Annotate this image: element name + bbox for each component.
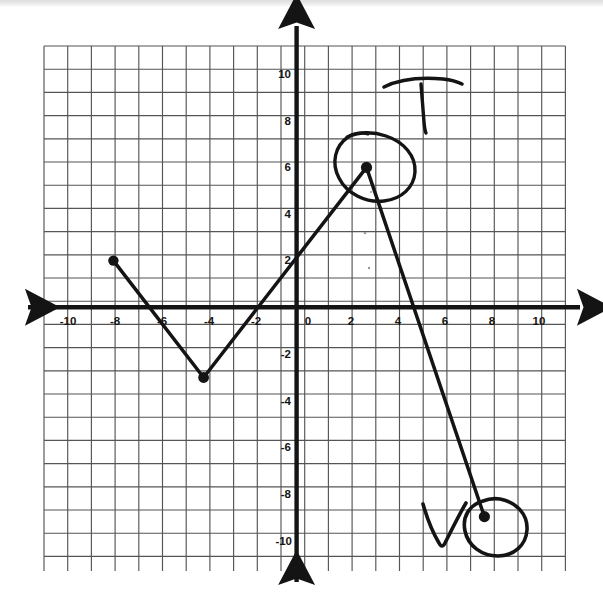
x-tick-0: 0	[305, 315, 311, 327]
y-tick-8: 8	[285, 115, 292, 127]
x-tick-10: 10	[533, 315, 546, 327]
y-tick--8: -8	[281, 488, 292, 500]
data-point-marker	[479, 511, 490, 522]
x-tick--10: -10	[60, 315, 77, 327]
scanned-page: -10 -8 -6 -4 -2 0 2 4 6 8 10 10 8 6 4 2 …	[0, 0, 603, 604]
series-line	[113, 167, 484, 516]
handwritten-annotations	[335, 78, 527, 556]
y-tick--4: -4	[281, 395, 292, 407]
x-tick-6: 6	[442, 315, 448, 327]
y-tick--2: -2	[281, 348, 291, 360]
x-tick-4: 4	[395, 315, 402, 327]
scan-speck	[364, 191, 372, 269]
x-tick-2: 2	[348, 315, 354, 327]
y-tick-6: 6	[285, 161, 291, 173]
x-tick--8: -8	[110, 315, 121, 327]
data-point-marker	[198, 372, 209, 383]
y-tick-4: 4	[285, 208, 292, 220]
y-tick--10: -10	[275, 535, 292, 547]
y-tick-10: 10	[278, 68, 291, 80]
data-point-marker	[361, 162, 372, 173]
coordinate-graph: -10 -8 -6 -4 -2 0 2 4 6 8 10 10 8 6 4 2 …	[0, 0, 603, 604]
data-point-marker	[108, 255, 118, 265]
x-axis-tick-labels: -10 -8 -6 -4 -2 0 2 4 6 8 10	[60, 315, 546, 327]
data-series-piecewise-path	[108, 162, 490, 522]
x-tick-8: 8	[489, 315, 496, 327]
x-tick--4: -4	[204, 315, 215, 327]
y-tick--6: -6	[281, 441, 291, 453]
